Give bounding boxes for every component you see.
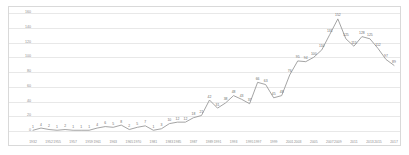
data-point-label: 89	[392, 60, 396, 63]
data-point-label: 66	[256, 77, 260, 80]
data-point-label: 76	[288, 70, 292, 73]
data-point-label: 31	[216, 103, 220, 106]
data-point-label: 1	[152, 125, 154, 128]
data-point-label: 100	[311, 52, 317, 55]
data-label-layer: 1421211146582571310121218214231384843376…	[9, 7, 400, 145]
plot-area: 1601401201008060402001932195219551957195…	[8, 6, 401, 146]
data-point-label: 12	[184, 117, 188, 120]
data-point-label: 43	[240, 94, 244, 97]
data-point-label: 115	[351, 41, 356, 44]
data-point-label: 63	[264, 80, 268, 83]
data-point-label: 2	[64, 125, 66, 128]
data-point-label: 131	[327, 29, 333, 32]
data-point-label: 1	[88, 125, 90, 128]
data-point-label: 7	[144, 121, 146, 124]
data-point-label: 8	[120, 120, 122, 123]
data-point-label: 45	[272, 93, 276, 96]
data-point-label: 3	[160, 124, 162, 127]
data-point-label: 95	[296, 56, 300, 59]
data-point-label: 48	[280, 91, 284, 94]
data-point-label: 6	[104, 122, 106, 125]
data-point-label: 18	[192, 113, 196, 116]
data-point-label: 4	[96, 123, 98, 126]
data-point-label: 5	[136, 122, 138, 125]
data-point-label: 1	[56, 125, 58, 128]
data-point-label: 1	[32, 125, 34, 128]
data-point-label: 125	[367, 34, 373, 37]
line-chart: 1601401201008060402001932195219551957195…	[0, 0, 409, 155]
data-point-label: 128	[359, 32, 365, 35]
data-point-label: 125	[343, 34, 349, 37]
data-point-label: 112	[375, 43, 380, 46]
data-point-label: 2	[128, 125, 130, 128]
data-point-label: 152	[335, 14, 341, 17]
data-point-label: 94	[304, 57, 308, 60]
data-point-label: 38	[224, 98, 228, 101]
data-point-label: 37	[248, 99, 252, 102]
data-point-label: 1	[72, 125, 74, 128]
data-point-label: 5	[112, 122, 114, 125]
data-point-label: 4	[40, 123, 42, 126]
data-point-label: 21	[200, 111, 204, 114]
data-point-label: 110	[319, 45, 324, 48]
data-point-label: 10	[167, 119, 171, 122]
data-point-label: 97	[384, 55, 388, 58]
data-point-label: 12	[176, 117, 180, 120]
data-point-label: 48	[232, 91, 236, 94]
data-point-label: 42	[208, 95, 212, 98]
data-point-label: 2	[48, 125, 50, 128]
data-point-label: 1	[80, 125, 82, 128]
